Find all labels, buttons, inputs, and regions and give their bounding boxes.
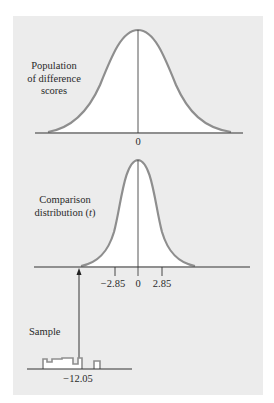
sample-arrow (77, 268, 82, 369)
population-label-line-2: of difference (23, 73, 85, 86)
sample-outlier-bar (94, 361, 100, 369)
comparison-label: Comparison distribution (t) (32, 194, 98, 219)
population-label-line-1: Population (23, 60, 85, 73)
comparison-tick-0: 0 (135, 278, 140, 290)
comparison-tick-neg-cutoff: −2.85 (101, 278, 125, 290)
population-tick-0: 0 (135, 136, 140, 148)
sample-tick-t: −12.05 (63, 373, 93, 385)
arrow-head-icon (77, 268, 82, 275)
comparison-label-line-1: Comparison (32, 194, 98, 207)
sample-histogram (27, 358, 132, 369)
sample-label: Sample (29, 326, 61, 339)
population-label: Population of difference scores (23, 60, 85, 98)
comparison-label-line-2: distribution (t) (32, 207, 98, 220)
population-label-line-3: scores (23, 85, 85, 98)
comparison-tick-pos-cutoff: 2.85 (153, 278, 171, 290)
